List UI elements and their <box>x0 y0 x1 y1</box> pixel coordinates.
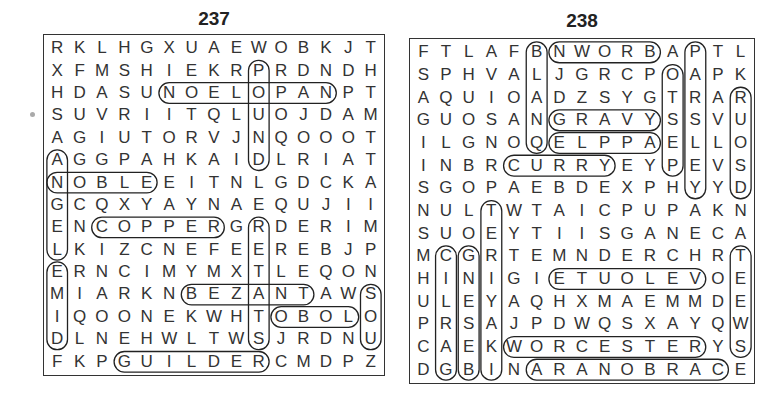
grid-cell: E <box>180 216 202 238</box>
grid-cell: T <box>359 82 381 104</box>
grid-cell: K <box>180 306 202 328</box>
grid-cell: E <box>292 239 314 261</box>
grid-cell: W <box>503 336 526 359</box>
grid-cell: D <box>315 104 337 126</box>
grid-cell: K <box>480 336 503 359</box>
grid-cell: E <box>203 82 225 104</box>
grid-cell: A <box>136 149 158 171</box>
grid-cell: T <box>359 37 381 59</box>
grid-cell: H <box>661 177 684 200</box>
grid-cell: L <box>684 132 707 155</box>
grid-cell: G <box>571 64 594 87</box>
grid-cell: T <box>480 200 503 223</box>
grid-cell: E <box>639 290 662 313</box>
grid-cell: N <box>315 82 337 104</box>
grid-cell: O <box>315 306 337 328</box>
grid-cell: I <box>158 350 180 372</box>
grid-cell: P <box>359 239 381 261</box>
grid-cell: N <box>158 239 180 261</box>
grid-cell: I <box>525 268 548 291</box>
grid-cell: W <box>729 313 752 336</box>
grid-cell: A <box>707 86 730 109</box>
grid-cell: O <box>729 132 752 155</box>
grid-cell: G <box>68 149 90 171</box>
grid-cell: A <box>661 313 684 336</box>
grid-cell: E <box>180 239 202 261</box>
grid-cell: S <box>359 283 381 305</box>
grid-cell: H <box>457 64 480 87</box>
grid-cell: H <box>136 328 158 350</box>
grid-cell: L <box>707 132 730 155</box>
grid-cell: O <box>503 86 526 109</box>
grid-cell: S <box>684 109 707 132</box>
grid-cell: R <box>270 59 292 81</box>
grid-cell: I <box>337 216 359 238</box>
grid-cell: Z <box>571 86 594 109</box>
grid-cell: O <box>616 358 639 381</box>
grid-cell: I <box>68 283 90 305</box>
puzzle-number: 238 <box>409 10 755 32</box>
grid-cell: J <box>225 127 247 149</box>
grid-cell: P <box>639 177 662 200</box>
grid-cell: A <box>359 171 381 193</box>
grid-cell: O <box>158 127 180 149</box>
grid-cell: J <box>315 194 337 216</box>
grid-cell: J <box>292 104 314 126</box>
grid-cell: I <box>158 104 180 126</box>
grid-cell: M <box>593 290 616 313</box>
grid-cell: Q <box>270 127 292 149</box>
grid-cell: B <box>457 154 480 177</box>
grid-cell: T <box>292 283 314 305</box>
grid-cell: B <box>292 306 314 328</box>
grid-cell: U <box>68 104 90 126</box>
grid-cell: O <box>503 132 526 155</box>
grid-cell: N <box>661 222 684 245</box>
grid-cell: V <box>203 127 225 149</box>
grid-cell: T <box>248 261 270 283</box>
grid-cell: A <box>480 41 503 64</box>
grid-cell: Z <box>113 239 135 261</box>
grid-cell: M <box>91 59 113 81</box>
grid-cell: X <box>616 177 639 200</box>
grid-cell: S <box>412 222 435 245</box>
grid-cell: P <box>661 154 684 177</box>
grid-cell: G <box>435 358 458 381</box>
grid-cell: M <box>158 261 180 283</box>
grid-cell: C <box>707 358 730 381</box>
grid-cell: A <box>639 222 662 245</box>
grid-cell: O <box>661 64 684 87</box>
grid-cell: S <box>113 59 135 81</box>
grid-cell: N <box>359 261 381 283</box>
grid-cell: U <box>359 328 381 350</box>
grid-cell: S <box>457 313 480 336</box>
grid-cell: G <box>412 109 435 132</box>
grid-cell: I <box>480 358 503 381</box>
grid-cell: R <box>548 358 571 381</box>
grid-cell: T <box>359 149 381 171</box>
grid-cell: L <box>337 306 359 328</box>
grid-cell: L <box>180 350 202 372</box>
grid-cell: O <box>270 104 292 126</box>
grid-cell: I <box>180 171 202 193</box>
grid-cell: E <box>225 350 247 372</box>
grid-cell: Q <box>593 313 616 336</box>
grid-cell: A <box>684 358 707 381</box>
grid-cell: L <box>270 149 292 171</box>
grid-cell: Y <box>136 194 158 216</box>
grid-cell: D <box>315 328 337 350</box>
grid-cell: M <box>203 261 225 283</box>
puzzle-number: 237 <box>43 8 385 30</box>
grid-cell: Y <box>707 177 730 200</box>
grid-cell: U <box>729 109 752 132</box>
grid-cell: T <box>525 200 548 223</box>
grid-cell: E <box>292 216 314 238</box>
grid-cell: G <box>270 171 292 193</box>
grid-cell: E <box>729 268 752 291</box>
grid-cell: P <box>593 132 616 155</box>
grid-cell: Y <box>616 86 639 109</box>
stray-dot <box>30 112 35 117</box>
grid-cell: D <box>203 350 225 372</box>
grid-cell: A <box>315 283 337 305</box>
grid-cell: P <box>270 82 292 104</box>
grid-cell: C <box>270 350 292 372</box>
